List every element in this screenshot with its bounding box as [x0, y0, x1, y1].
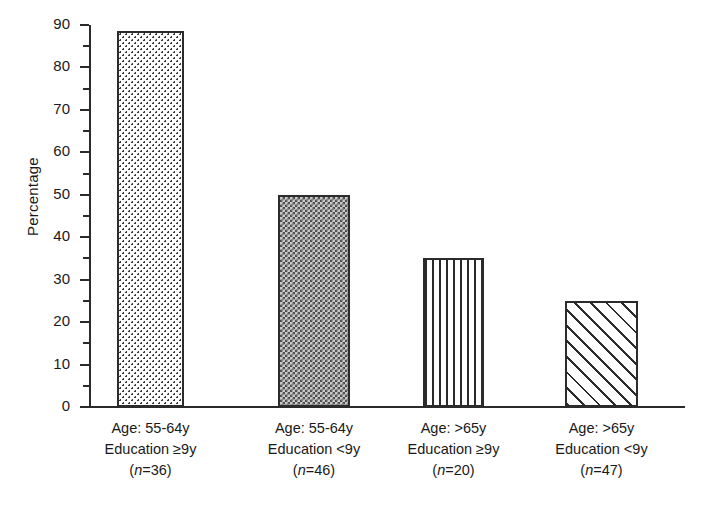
- y-tick-major: [80, 321, 89, 323]
- y-tick-label: 80: [30, 58, 70, 73]
- y-tick-major: [80, 24, 89, 26]
- category-label-sample-size: (n=47): [512, 460, 692, 481]
- sample-size-symbol: n: [437, 462, 445, 478]
- sample-size-symbol: n: [298, 462, 306, 478]
- bar: [278, 195, 350, 407]
- category-label-education: Education ≥9y: [61, 439, 241, 460]
- y-tick-major: [80, 236, 89, 238]
- category-label-education: Education <9y: [512, 439, 692, 460]
- y-tick-major: [80, 406, 89, 408]
- y-tick-label: 90: [30, 16, 70, 31]
- y-tick-major: [80, 279, 89, 281]
- y-tick-label: 20: [30, 313, 70, 328]
- y-tick-major: [80, 66, 89, 68]
- y-tick-label: 10: [30, 356, 70, 371]
- y-tick-label: 70: [30, 101, 70, 116]
- y-tick-label: 0: [30, 398, 70, 413]
- bar: [423, 258, 484, 407]
- y-tick-major: [80, 194, 89, 196]
- category-label-age: Age: 55-64y: [61, 418, 241, 439]
- sample-size-symbol: n: [134, 462, 142, 478]
- y-tick-major: [80, 151, 89, 153]
- bar-chart-figure: Percentage 9080706050403020100 Age: 55-6…: [0, 0, 704, 515]
- y-tick-label: 40: [30, 228, 70, 243]
- sample-size-symbol: n: [585, 462, 593, 478]
- y-tick-major: [80, 109, 89, 111]
- bar: [117, 31, 184, 407]
- y-tick-label: 50: [30, 186, 70, 201]
- bar-series: [89, 25, 681, 407]
- category-label: Age: >65yEducation <9y(n=47): [512, 418, 692, 481]
- category-label-sample-size: (n=36): [61, 460, 241, 481]
- y-tick-major: [80, 364, 89, 366]
- category-label: Age: 55-64yEducation ≥9y(n=36): [61, 418, 241, 481]
- category-label-age: Age: >65y: [512, 418, 692, 439]
- y-tick-label: 60: [30, 143, 70, 158]
- bar: [565, 301, 638, 407]
- y-tick-label: 30: [30, 271, 70, 286]
